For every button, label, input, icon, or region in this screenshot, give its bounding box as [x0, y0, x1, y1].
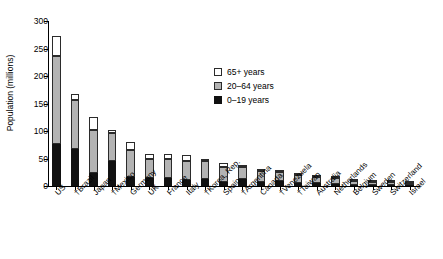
bar-UK	[145, 10, 154, 186]
bar-segment-20-64	[71, 100, 80, 150]
bar-segment-65plus	[52, 36, 61, 55]
y-tick-mark-50	[44, 159, 48, 160]
y-tick-label: 200	[6, 72, 48, 81]
y-tick-300: 300	[0, 21, 48, 22]
bar-France	[164, 10, 173, 186]
bar-Brazil	[71, 10, 80, 186]
y-tick-label: 300	[6, 17, 48, 26]
y-tick-label: 100	[6, 127, 48, 136]
legend-swatch-20-64	[214, 82, 222, 90]
bar-Venezuela	[275, 10, 284, 186]
legend-swatch-0-19	[214, 96, 222, 104]
y-tick-label: 250	[6, 45, 48, 54]
bar-Netherlands	[331, 10, 340, 186]
bar-segment-65plus	[201, 159, 210, 161]
bar-segment-65plus	[126, 142, 135, 150]
bar-segment-20-64	[201, 161, 210, 179]
bar-Mexico	[108, 10, 117, 186]
y-tick-mark-150	[44, 104, 48, 105]
y-tick-0: 0	[0, 186, 48, 187]
bar-Belgium	[350, 10, 359, 186]
y-tick-label: 0	[6, 182, 48, 191]
y-tick-mark-0	[44, 186, 48, 187]
bar-Japan	[89, 10, 98, 186]
bar-segment-65plus	[145, 154, 154, 159]
bar-segment-20-64	[52, 56, 61, 144]
population-stacked-bar-chart: Population (millions) 050100150200250300…	[0, 0, 443, 259]
bar-segment-65plus	[182, 155, 191, 161]
legend: 65+ years 20–64 years 0–19 years	[214, 66, 274, 108]
legend-label-0-19: 0–19 years	[227, 96, 269, 105]
y-tick-label: 50	[6, 155, 48, 164]
y-tick-50: 50	[0, 159, 48, 160]
bar-Italy	[182, 10, 191, 186]
bar-segment-0-19	[71, 149, 80, 186]
bar-US	[52, 10, 61, 186]
y-tick-mark-200	[44, 76, 48, 77]
bar-Germany	[126, 10, 135, 186]
legend-label-20-64: 20–64 years	[227, 82, 274, 91]
y-tick-mark-100	[44, 131, 48, 132]
bar-Sweden	[368, 10, 377, 186]
bar-segment-65plus	[164, 154, 173, 159]
bar-KoreaRep	[201, 10, 210, 186]
y-tick-100: 100	[0, 131, 48, 132]
legend-item-20-64: 20–64 years	[214, 80, 274, 92]
bar-segment-20-64	[108, 133, 117, 162]
bar-Switzerland	[387, 10, 396, 186]
bar-segment-65plus	[71, 94, 80, 100]
bar-segment-20-64	[238, 167, 247, 179]
y-tick-mark-250	[44, 49, 48, 50]
y-tick-250: 250	[0, 49, 48, 50]
legend-label-65plus: 65+ years	[227, 68, 265, 77]
y-tick-label: 150	[6, 100, 48, 109]
bar-segment-65plus	[89, 117, 98, 130]
bar-segment-0-19	[52, 144, 61, 186]
bar-Taiwan	[294, 10, 303, 186]
legend-item-0-19: 0–19 years	[214, 94, 274, 106]
y-tick-200: 200	[0, 76, 48, 77]
bar-segment-20-64	[164, 159, 173, 178]
y-tick-150: 150	[0, 104, 48, 105]
bar-segment-20-64	[89, 130, 98, 173]
bar-Australia	[312, 10, 321, 186]
bar-segment-65plus	[108, 130, 117, 133]
legend-swatch-65plus	[214, 68, 222, 76]
y-tick-mark-300	[44, 21, 48, 22]
legend-item-65plus: 65+ years	[214, 66, 274, 78]
bar-Israel	[405, 10, 414, 186]
